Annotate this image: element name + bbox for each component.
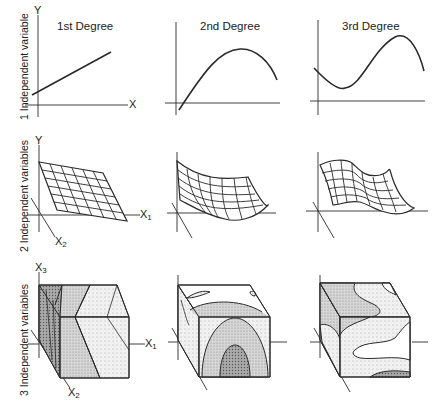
plot-2var-2nd-degree bbox=[167, 152, 276, 238]
plot-3var-1st-degree bbox=[28, 272, 145, 388]
plot-3var-2nd-degree bbox=[168, 275, 287, 390]
plot-1var-1st-degree bbox=[25, 15, 128, 117]
axis-label-x1-row2: X1 bbox=[140, 208, 152, 222]
axis-label-x2-row3: X2 bbox=[68, 386, 80, 400]
axis-label-x1-row3: X1 bbox=[145, 337, 157, 351]
plot-2var-1st-degree bbox=[27, 145, 140, 237]
plot-2var-3rd-degree bbox=[306, 152, 428, 238]
plot-1var-3rd-degree bbox=[310, 20, 425, 115]
axis-label-x2-row2: X2 bbox=[55, 235, 67, 249]
axis-label-x3-row3: X3 bbox=[35, 261, 47, 275]
axis-label-y-row1: Y bbox=[34, 4, 41, 16]
axis-label-y-row2: Y bbox=[35, 134, 42, 146]
axis-label-x-row1: X bbox=[129, 98, 136, 110]
plot-3var-3rd-degree bbox=[310, 275, 428, 392]
polynomial-degree-figure bbox=[0, 0, 442, 406]
plot-1var-2nd-degree bbox=[165, 22, 280, 115]
